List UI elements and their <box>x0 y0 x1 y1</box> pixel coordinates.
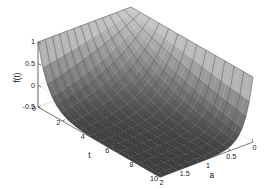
zaxis-title: f(t) <box>13 72 22 82</box>
ztick-0: 0 <box>31 81 35 90</box>
ztick-0.5: 0.5 <box>25 59 35 68</box>
plot-canvas: 10.50-0.5024681021.510.50f(t)ta <box>0 0 264 189</box>
xtick-2: 2 <box>160 178 164 187</box>
figure-3d-surface-plot: 10.50-0.5024681021.510.50f(t)ta <box>0 0 264 189</box>
ztick-1: 1 <box>31 37 35 46</box>
ytick-4: 4 <box>81 132 85 141</box>
ytick-6: 6 <box>105 146 109 155</box>
ytick-8: 8 <box>130 160 134 169</box>
yaxis-title: t <box>88 151 91 160</box>
ytick-2: 2 <box>56 118 60 127</box>
ytick-10: 10 <box>150 174 158 183</box>
xtick-0.5: 0.5 <box>226 152 236 161</box>
xtick-1: 1 <box>206 161 210 170</box>
ytick-0: 0 <box>32 104 36 113</box>
xtick-0: 0 <box>253 143 257 152</box>
xaxis-title: a <box>210 171 215 180</box>
xtick-1.5: 1.5 <box>180 169 190 178</box>
surface-mesh <box>38 7 253 177</box>
